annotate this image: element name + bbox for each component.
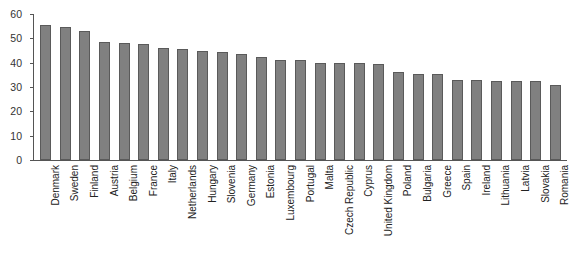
x-tick-slot: Austria (95, 163, 115, 259)
bar (197, 51, 208, 161)
x-tick-slot: Czech Republic (330, 163, 350, 259)
bar (40, 25, 51, 160)
x-tick-slot: Malta (310, 163, 330, 259)
bar-slot (232, 14, 252, 160)
x-tick-slot: Belgium (114, 163, 134, 259)
bar-slot (134, 14, 154, 160)
y-tick-label: 0 (16, 155, 22, 166)
bar-slot (545, 14, 565, 160)
y-tick-mark (30, 87, 34, 88)
bar (550, 85, 561, 160)
x-tick-slot: Ireland (467, 163, 487, 259)
x-tick-slot: Cyprus (350, 163, 370, 259)
y-tick-mark (30, 63, 34, 64)
bar (79, 31, 90, 160)
plot-area (34, 14, 567, 160)
x-tick-slot: Bulgaria (408, 163, 428, 259)
x-tick-slot: Netherlands (173, 163, 193, 259)
bar-chart: 0102030405060 DenmarkSwedenFinlandAustri… (0, 0, 571, 263)
x-tick-label: Romania (560, 165, 570, 205)
bar (138, 44, 149, 160)
x-tick-slot: Latvia (506, 163, 526, 259)
bar (432, 74, 443, 160)
x-tick-slot: Luxembourg (271, 163, 291, 259)
bar (471, 80, 482, 160)
bar (511, 81, 522, 160)
x-tick-slot: Lithuania (487, 163, 507, 259)
y-axis: 0102030405060 (0, 0, 30, 263)
x-tick-slot: Greece (428, 163, 448, 259)
x-tick-slot: Spain (447, 163, 467, 259)
bar-slot (154, 14, 174, 160)
bar (530, 81, 541, 160)
x-axis-line (33, 160, 567, 161)
bar-slot (447, 14, 467, 160)
y-tick-label: 10 (10, 130, 22, 141)
bar-slot (487, 14, 507, 160)
x-tick-slot: Slovenia (212, 163, 232, 259)
bar-slot (428, 14, 448, 160)
bar (393, 72, 404, 160)
y-tick-mark (30, 160, 34, 161)
bar-slot (350, 14, 370, 160)
x-tick-slot: Poland (389, 163, 409, 259)
bar-slot (95, 14, 115, 160)
bar-slot (369, 14, 389, 160)
bar (99, 42, 110, 160)
x-tick-slot: Germany (232, 163, 252, 259)
bar-slot (252, 14, 272, 160)
bar (295, 60, 306, 160)
bar-slot (467, 14, 487, 160)
bar-slot (173, 14, 193, 160)
bar-slot (193, 14, 213, 160)
x-tick-slot: Sweden (56, 163, 76, 259)
y-tick-label: 50 (10, 33, 22, 44)
bar (491, 81, 502, 160)
y-tick-mark (30, 38, 34, 39)
bar (334, 63, 345, 160)
x-tick-slot: Slovakia (526, 163, 546, 259)
x-tick-slot: France (134, 163, 154, 259)
bar-slot (271, 14, 291, 160)
bar (158, 48, 169, 160)
x-tick-slot: United Kingdom (369, 163, 389, 259)
y-tick-label: 40 (10, 57, 22, 68)
bar (413, 74, 424, 160)
bar-slot (506, 14, 526, 160)
y-tick-mark (30, 136, 34, 137)
bar (315, 63, 326, 160)
bar (177, 49, 188, 160)
bar-slot (310, 14, 330, 160)
bar-slot (408, 14, 428, 160)
bar (354, 63, 365, 160)
bar-slot (330, 14, 350, 160)
bar (119, 43, 130, 160)
x-tick-slot: Italy (154, 163, 174, 259)
x-tick-slot: Hungary (193, 163, 213, 259)
bar-series (34, 14, 567, 160)
y-tick-label: 60 (10, 9, 22, 20)
bar-slot (114, 14, 134, 160)
x-axis: DenmarkSwedenFinlandAustriaBelgiumFrance… (34, 163, 567, 259)
y-tick-mark (30, 111, 34, 112)
bar (452, 80, 463, 160)
y-tick-mark (30, 14, 34, 15)
y-tick-label: 20 (10, 106, 22, 117)
bar (236, 54, 247, 160)
bar (217, 52, 228, 160)
bar (275, 60, 286, 160)
y-tick-label: 30 (10, 82, 22, 93)
x-tick-slot: Portugal (291, 163, 311, 259)
bar-slot (56, 14, 76, 160)
x-tick-slot: Finland (75, 163, 95, 259)
x-tick-slot: Romania (545, 163, 565, 259)
x-tick-slot: Estonia (252, 163, 272, 259)
bar-slot (212, 14, 232, 160)
bar (60, 27, 71, 160)
bar (256, 57, 267, 160)
bar-slot (75, 14, 95, 160)
bar-slot (526, 14, 546, 160)
bar-slot (36, 14, 56, 160)
bar-slot (389, 14, 409, 160)
bar-slot (291, 14, 311, 160)
